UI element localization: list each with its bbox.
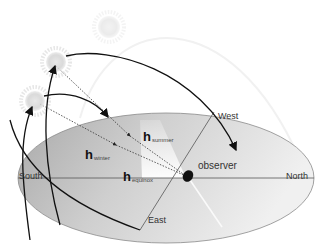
diagram-graphics: [0, 0, 329, 244]
north-label: North: [286, 172, 308, 181]
h-winter-label: hwinter: [85, 148, 110, 161]
sun-path-diagram: West East South North observer hsummer h…: [0, 0, 329, 244]
south-label: South: [19, 172, 43, 181]
h-equinox-label: hequinox: [123, 170, 153, 183]
h-summer-label: hsummer: [143, 130, 174, 143]
summer-sun-icon: [94, 12, 124, 42]
observer-label: observer: [198, 161, 237, 171]
equinox-sun-icon: [42, 48, 70, 76]
east-label: East: [148, 216, 166, 225]
winter-sun-icon: [21, 87, 49, 115]
west-label: West: [218, 112, 238, 121]
